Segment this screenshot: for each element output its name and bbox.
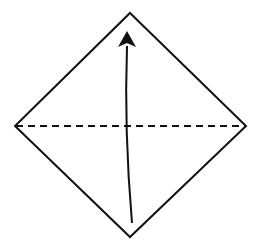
origami-diagram: [0, 0, 260, 241]
diagram-canvas: [0, 0, 260, 241]
